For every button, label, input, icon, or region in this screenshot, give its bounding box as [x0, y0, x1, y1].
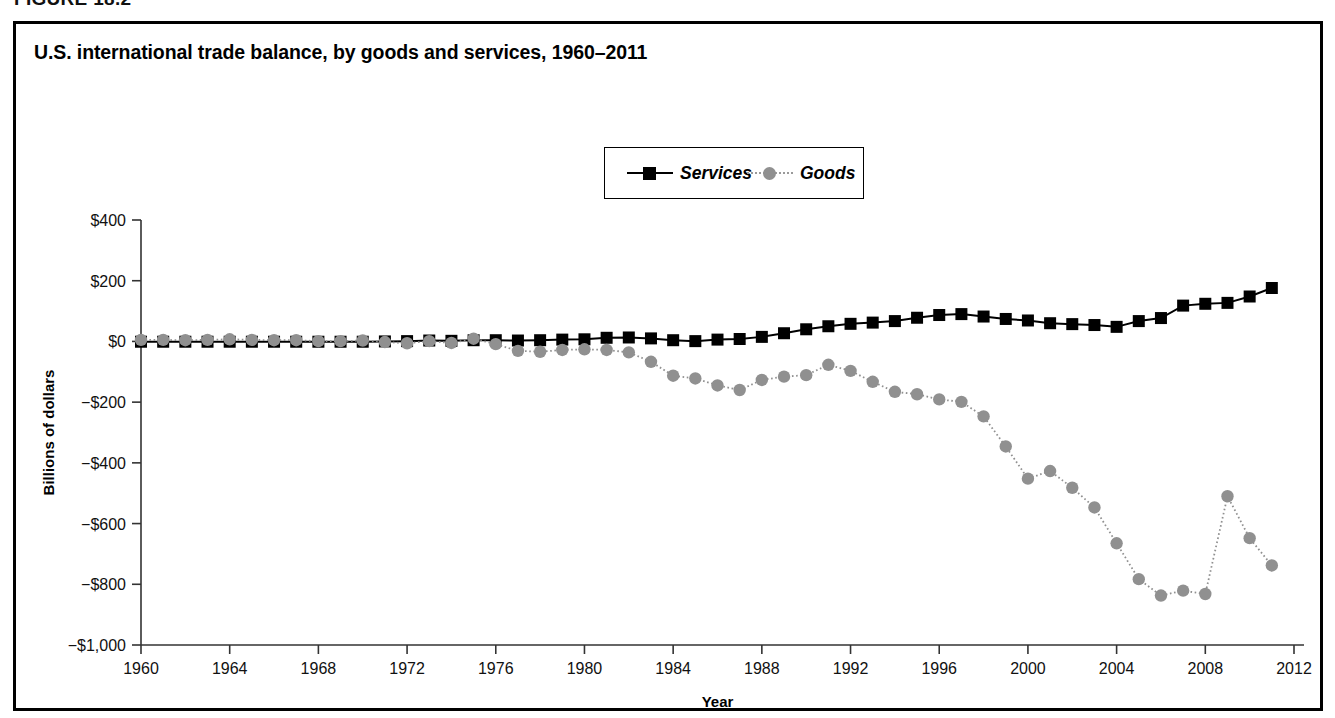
data-point-marker[interactable]	[601, 332, 613, 344]
data-point-marker[interactable]	[490, 338, 502, 350]
data-point-marker[interactable]	[246, 334, 258, 346]
data-point-marker[interactable]	[623, 331, 635, 343]
data-point-marker[interactable]	[1155, 312, 1167, 324]
data-point-marker[interactable]	[1243, 532, 1255, 544]
data-point-marker[interactable]	[800, 323, 812, 335]
x-axis-tick-label: 2012	[1276, 660, 1312, 677]
y-axis-tick-label: −$200	[81, 394, 126, 411]
data-point-marker[interactable]	[778, 327, 790, 339]
data-point-marker[interactable]	[357, 334, 369, 346]
data-point-marker[interactable]	[955, 308, 967, 320]
data-point-marker[interactable]	[1110, 537, 1122, 549]
data-point-marker[interactable]	[379, 336, 391, 348]
data-point-marker[interactable]	[1266, 282, 1278, 294]
data-point-marker[interactable]	[578, 343, 590, 355]
figure-border-box: U.S. international trade balance, by goo…	[13, 21, 1323, 711]
data-point-marker[interactable]	[268, 334, 280, 346]
data-point-marker[interactable]	[157, 334, 169, 346]
data-point-marker[interactable]	[955, 396, 967, 408]
data-point-marker[interactable]	[1221, 490, 1233, 502]
x-axis-tick-label: 2008	[1188, 660, 1224, 677]
data-point-marker[interactable]	[135, 334, 147, 346]
data-point-marker[interactable]	[911, 312, 923, 324]
data-point-marker[interactable]	[689, 372, 701, 384]
data-point-marker[interactable]	[933, 393, 945, 405]
data-point-marker[interactable]	[1199, 298, 1211, 310]
data-point-marker[interactable]	[512, 345, 524, 357]
figure-page: FIGURE 18.2 U.S. international trade bal…	[0, 0, 1335, 718]
data-point-marker[interactable]	[1022, 314, 1034, 326]
x-axis-tick-label: 1960	[123, 660, 159, 677]
data-point-marker[interactable]	[1244, 291, 1256, 303]
data-point-marker[interactable]	[290, 334, 302, 346]
data-series-services	[135, 282, 1278, 348]
data-point-marker[interactable]	[667, 334, 679, 346]
data-point-marker[interactable]	[645, 332, 657, 344]
data-point-marker[interactable]	[1199, 588, 1211, 600]
data-point-marker[interactable]	[1155, 589, 1167, 601]
data-point-marker[interactable]	[334, 335, 346, 347]
data-point-marker[interactable]	[179, 334, 191, 346]
data-point-marker[interactable]	[1022, 472, 1034, 484]
data-point-marker[interactable]	[756, 331, 768, 343]
data-point-marker[interactable]	[733, 384, 745, 396]
data-point-marker[interactable]	[711, 379, 723, 391]
data-point-marker[interactable]	[889, 315, 901, 327]
data-point-marker[interactable]	[889, 386, 901, 398]
data-point-marker[interactable]	[911, 388, 923, 400]
data-point-marker[interactable]	[1044, 465, 1056, 477]
x-axis-tick-label: 1964	[212, 660, 248, 677]
data-point-marker[interactable]	[845, 318, 857, 330]
data-point-marker[interactable]	[800, 369, 812, 381]
data-point-marker[interactable]	[1088, 501, 1100, 513]
y-axis-tick-label: $200	[90, 273, 126, 290]
data-point-marker[interactable]	[867, 376, 879, 388]
data-point-marker[interactable]	[223, 333, 235, 345]
data-point-marker[interactable]	[1221, 297, 1233, 309]
data-point-marker[interactable]	[1000, 440, 1012, 452]
series-layer	[135, 282, 1278, 602]
data-point-marker[interactable]	[1088, 319, 1100, 331]
series-line-goods	[141, 339, 1272, 596]
data-point-marker[interactable]	[822, 320, 834, 332]
x-axis-tick-label: 1976	[478, 660, 514, 677]
data-point-marker[interactable]	[1066, 318, 1078, 330]
data-point-marker[interactable]	[933, 309, 945, 321]
data-point-marker[interactable]	[734, 333, 746, 345]
data-point-marker[interactable]	[556, 344, 568, 356]
data-point-marker[interactable]	[312, 335, 324, 347]
data-point-marker[interactable]	[623, 346, 635, 358]
data-point-marker[interactable]	[445, 337, 457, 349]
data-point-marker[interactable]	[1044, 317, 1056, 329]
data-point-marker[interactable]	[1066, 482, 1078, 494]
x-axis-tick-label: 1968	[301, 660, 337, 677]
data-point-marker[interactable]	[201, 334, 213, 346]
data-point-marker[interactable]	[423, 335, 435, 347]
data-point-marker[interactable]	[645, 356, 657, 368]
x-axis-tick-label: 1992	[833, 660, 869, 677]
data-point-marker[interactable]	[534, 346, 546, 358]
data-point-marker[interactable]	[667, 370, 679, 382]
data-point-marker[interactable]	[712, 334, 724, 346]
data-point-marker[interactable]	[600, 344, 612, 356]
data-point-marker[interactable]	[978, 311, 990, 323]
data-point-marker[interactable]	[534, 334, 546, 346]
data-point-marker[interactable]	[756, 374, 768, 386]
figure-number-label: FIGURE 18.2	[14, 0, 131, 10]
data-point-marker[interactable]	[467, 332, 479, 344]
data-point-marker[interactable]	[1266, 559, 1278, 571]
data-point-marker[interactable]	[1133, 573, 1145, 585]
series-line-services	[141, 288, 1272, 342]
data-point-marker[interactable]	[867, 317, 879, 329]
data-point-marker[interactable]	[1177, 584, 1189, 596]
data-point-marker[interactable]	[778, 370, 790, 382]
data-point-marker[interactable]	[844, 365, 856, 377]
data-point-marker[interactable]	[977, 410, 989, 422]
data-point-marker[interactable]	[822, 359, 834, 371]
data-point-marker[interactable]	[1133, 315, 1145, 327]
data-point-marker[interactable]	[1111, 321, 1123, 333]
data-point-marker[interactable]	[689, 335, 701, 347]
data-point-marker[interactable]	[1177, 300, 1189, 312]
data-point-marker[interactable]	[1000, 313, 1012, 325]
data-point-marker[interactable]	[401, 337, 413, 349]
